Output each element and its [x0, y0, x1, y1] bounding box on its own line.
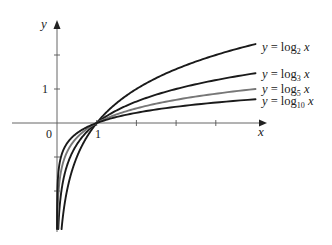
y-tick-label-1: 1 [42, 82, 48, 96]
y-axis-label: y [39, 16, 47, 31]
curve-log3 [58, 73, 255, 229]
series-label-log3: y = log3 x [260, 67, 310, 83]
series-labels: y = log2 xy = log3 xy = log5 xy = log10 … [260, 40, 314, 110]
x-tick-label-1: 1 [95, 127, 101, 141]
curve-log2 [62, 44, 256, 229]
curve-log10 [57, 99, 255, 229]
log-curves-chart: y = log2 xy = log3 xy = log5 xy = log10 … [0, 0, 332, 245]
x-axis-label: x [257, 124, 264, 139]
series-label-log2: y = log2 x [260, 40, 310, 56]
series-label-log10: y = log10 x [260, 94, 314, 110]
y-axis-arrow-icon [54, 20, 61, 29]
curves [57, 44, 255, 229]
origin-label: 0 [46, 127, 52, 141]
